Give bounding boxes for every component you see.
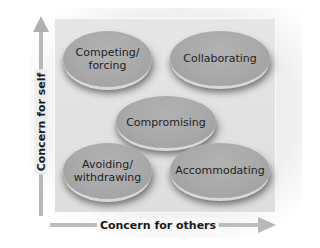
y-axis-label: Concern for self [35, 70, 48, 175]
style-accommodating: Accommodating [170, 143, 270, 198]
right-arrow-icon [258, 217, 276, 233]
x-axis-label: Concern for others [97, 219, 219, 232]
style-label: Avoiding/ [74, 158, 142, 171]
style-competing: Competing/ forcing [63, 31, 152, 87]
style-collaborating: Collaborating [170, 31, 270, 86]
style-compromising: Compromising [116, 96, 216, 148]
style-label: forcing [76, 59, 140, 72]
style-label: Compromising [126, 116, 206, 129]
style-avoiding: Avoiding/ withdrawing [63, 143, 152, 199]
style-label: Collaborating [183, 52, 257, 65]
style-label: Competing/ [76, 46, 140, 59]
style-label: Accommodating [175, 164, 264, 177]
up-arrow-icon [33, 16, 49, 32]
style-label: withdrawing [74, 171, 142, 184]
